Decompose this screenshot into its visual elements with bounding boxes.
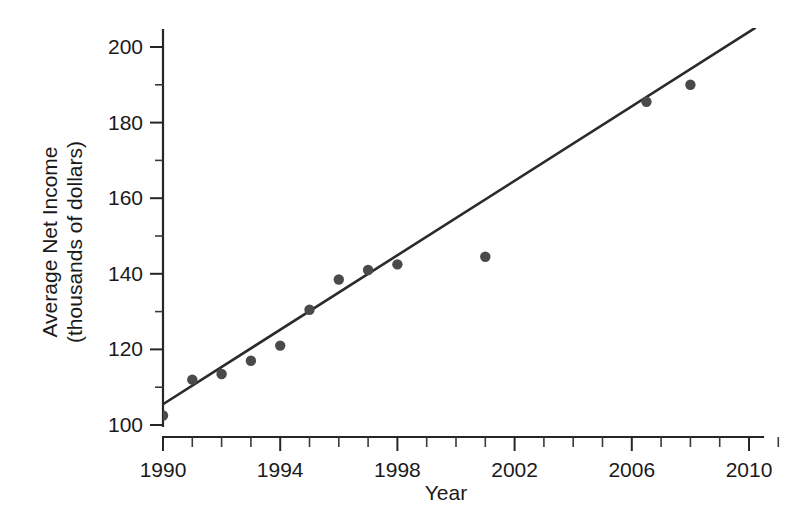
y-tick-label: 100 — [108, 413, 143, 436]
trend-line-segment — [163, 28, 755, 404]
data-point — [334, 274, 344, 284]
data-point — [392, 259, 402, 269]
y-axis-minor-ticks — [155, 85, 163, 387]
data-point — [480, 252, 490, 262]
data-point — [685, 80, 695, 90]
x-tick-label: 1998 — [374, 458, 421, 481]
scatter-plot: 100120140160180200 199019941998200220062… — [0, 0, 795, 524]
x-tick-label: 2006 — [608, 458, 655, 481]
x-tick-label: 1990 — [140, 458, 187, 481]
y-tick-label: 140 — [108, 262, 143, 285]
y-tick-label: 180 — [108, 111, 143, 134]
data-point — [363, 265, 373, 275]
y-tick-label: 200 — [108, 35, 143, 58]
y-axis-tick-labels: 100120140160180200 — [108, 35, 143, 436]
x-tick-label: 2002 — [491, 458, 538, 481]
y-axis-title-line1: Average Net Income — [38, 146, 61, 337]
x-axis-title: Year — [425, 481, 467, 504]
data-point — [304, 305, 314, 315]
data-point — [275, 340, 285, 350]
x-axis-tick-labels: 199019941998200220062010 — [140, 458, 773, 481]
trend-line — [163, 28, 755, 404]
data-point — [641, 97, 651, 107]
data-point — [187, 374, 197, 384]
data-points — [158, 80, 696, 421]
x-tick-label: 2010 — [726, 458, 773, 481]
x-tick-label: 1994 — [257, 458, 304, 481]
y-tick-label: 120 — [108, 337, 143, 360]
data-point — [246, 356, 256, 366]
chart-figure: 100120140160180200 199019941998200220062… — [0, 0, 795, 524]
data-point — [216, 369, 226, 379]
y-axis-title-line2: (thousands of dollars) — [63, 141, 86, 343]
y-tick-label: 160 — [108, 186, 143, 209]
data-point — [158, 410, 168, 420]
